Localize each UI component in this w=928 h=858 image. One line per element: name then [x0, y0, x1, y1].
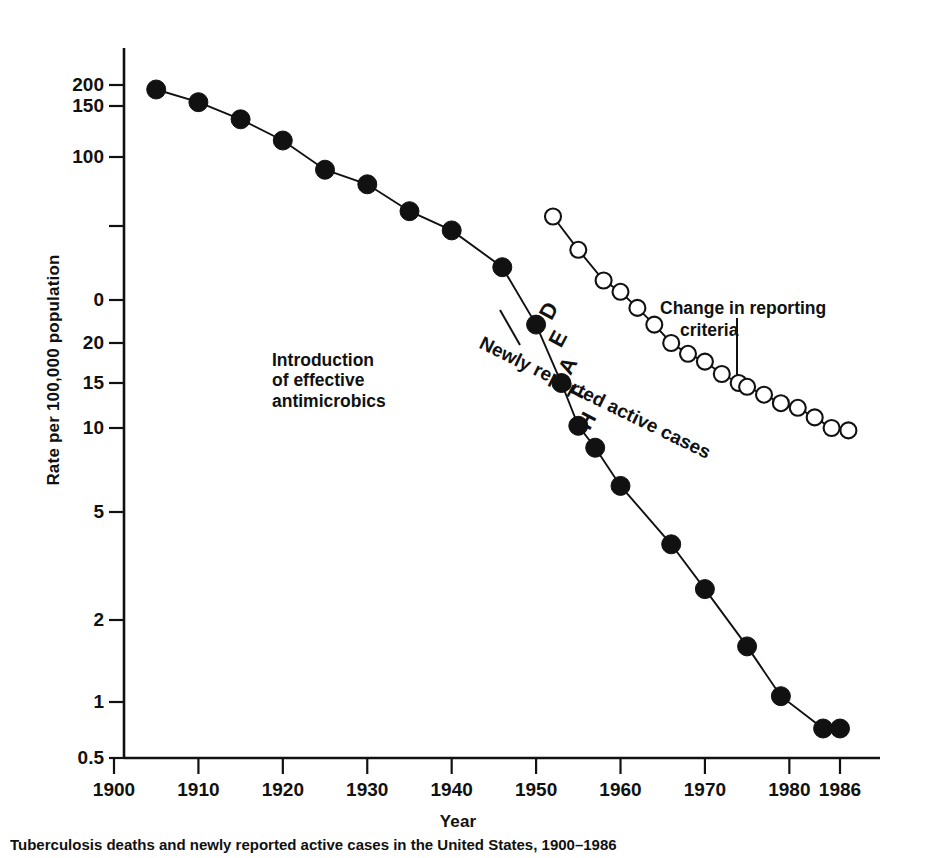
x-tick-label: 1986 — [795, 780, 885, 799]
y-tick-label: 0 — [20, 290, 104, 309]
x-tick-label: 1970 — [660, 780, 750, 799]
x-axis-title: Year — [398, 812, 518, 832]
data-point-marker — [231, 110, 250, 129]
data-point-marker — [316, 160, 335, 179]
data-point-marker — [695, 580, 714, 599]
data-point-marker — [814, 719, 833, 738]
y-tick-label: 1 — [20, 692, 104, 711]
data-point-marker — [400, 202, 419, 221]
y-tick-label: 200 — [20, 75, 104, 94]
data-point-marker — [596, 273, 612, 289]
y-axis-ticks — [109, 85, 124, 758]
data-point-marker — [147, 80, 166, 99]
y-tick-label: 15 — [20, 373, 104, 392]
data-point-marker — [273, 131, 292, 150]
y-tick-label: 100 — [20, 147, 104, 166]
data-point-marker — [646, 317, 662, 333]
data-point-marker — [771, 687, 790, 706]
data-point-marker — [570, 242, 586, 258]
chart-canvas — [0, 0, 928, 858]
annotation-introduction-of-effective-antimicrobics: Introduction of effective antimicrobics — [272, 350, 502, 411]
y-tick-label: 0.5 — [20, 748, 104, 767]
y-tick-label: 10 — [20, 418, 104, 437]
y-tick-label: 150 — [20, 96, 104, 115]
x-tick-label: 1960 — [576, 780, 666, 799]
data-point-marker — [831, 719, 850, 738]
x-tick-label: 1910 — [153, 780, 243, 799]
data-point-marker — [527, 315, 546, 334]
data-point-marker — [807, 409, 823, 425]
data-point-marker — [442, 221, 461, 240]
data-point-marker — [739, 379, 755, 395]
x-tick-label: 1900 — [69, 780, 159, 799]
data-point-marker — [545, 209, 561, 225]
data-point-marker — [756, 387, 772, 403]
x-tick-label: 1940 — [407, 780, 497, 799]
x-tick-label: 1950 — [491, 780, 581, 799]
data-point-marker — [611, 476, 630, 495]
data-point-marker — [613, 284, 629, 300]
y-axis-title: Rate per 100,000 population — [44, 220, 64, 520]
data-point-marker — [738, 637, 757, 656]
data-point-marker — [358, 175, 377, 194]
x-axis-ticks — [114, 758, 840, 774]
y-tick-label: 2 — [20, 610, 104, 629]
data-point-marker — [680, 346, 696, 362]
data-point-marker — [697, 354, 713, 370]
y-tick-label: 20 — [20, 333, 104, 352]
leader-line-antimicrobics — [500, 310, 520, 345]
data-point-marker — [189, 93, 208, 112]
data-point-marker — [663, 335, 679, 351]
data-point-marker — [824, 420, 840, 436]
data-point-marker — [790, 400, 806, 416]
figure-caption: Tuberculosis deaths and newly reported a… — [10, 836, 918, 853]
data-point-marker — [840, 422, 856, 438]
annotation-change-in-reporting: Change in reporting — [660, 298, 900, 318]
data-point-marker — [493, 258, 512, 277]
data-point-marker — [629, 300, 645, 316]
x-tick-label: 1920 — [238, 780, 328, 799]
x-tick-label: 1930 — [322, 780, 412, 799]
data-point-marker — [662, 535, 681, 554]
data-point-marker — [714, 366, 730, 382]
data-point-marker — [773, 395, 789, 411]
y-tick-label: 5 — [20, 502, 104, 521]
annotation-criteria: criteria — [680, 320, 860, 340]
